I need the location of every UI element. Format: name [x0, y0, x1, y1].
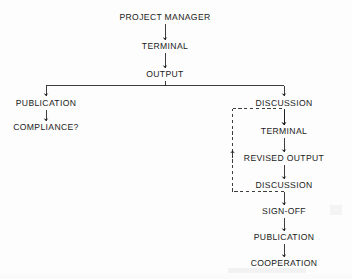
node-output: OUTPUT	[146, 70, 183, 79]
node-terminal-top: TERMINAL	[142, 42, 188, 51]
node-cooperation: COOPERATION	[251, 259, 318, 268]
node-discussion-1: DISCUSSION	[256, 99, 313, 108]
node-compliance: COMPLIANCE?	[13, 123, 78, 132]
node-project-manager: PROJECT MANAGER	[119, 13, 210, 22]
flowchart-page: PROJECT MANAGER TERMINAL OUTPUT PUBLICAT…	[0, 0, 352, 279]
node-publication-right: PUBLICATION	[254, 233, 315, 242]
node-discussion-2: DISCUSSION	[256, 181, 313, 190]
node-sign-off: SIGN-OFF	[262, 207, 306, 216]
node-revised-output: REVISED OUTPUT	[244, 154, 324, 163]
node-terminal-loop: TERMINAL	[261, 127, 307, 136]
node-publication-left: PUBLICATION	[16, 99, 77, 108]
